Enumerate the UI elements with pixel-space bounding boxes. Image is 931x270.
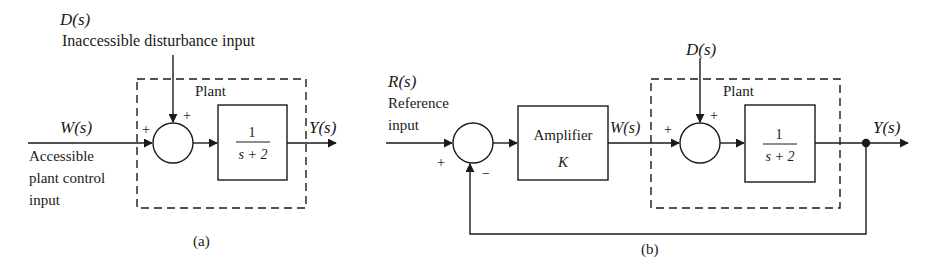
plant-label-b: Plant (723, 83, 755, 99)
tf-denominator-a: s + 2 (239, 147, 268, 162)
sum2-sign-top-b: + (710, 108, 718, 123)
sum1-sign-bottom-b: − (482, 166, 490, 181)
caption-a: (a) (193, 233, 210, 250)
tf-numerator-b: 1 (776, 127, 783, 142)
pickoff-point-b (863, 140, 870, 147)
sum-sign-left-a: + (142, 122, 150, 137)
input-desc-line-3: input (29, 192, 61, 208)
plant-label-a: Plant (195, 83, 227, 99)
summing-junction-a (153, 123, 193, 163)
input-label-a: W(s) (60, 118, 92, 137)
output-label-b: Y(s) (873, 118, 901, 137)
tf-denominator-b: s + 2 (766, 149, 795, 164)
caption-b: (b) (641, 241, 659, 258)
intermediate-label-b: W(s) (610, 119, 640, 137)
reference-desc-line-2: input (388, 117, 420, 133)
sum-sign-top-a: + (183, 108, 191, 123)
summing-junction-2-b (680, 123, 720, 163)
amplifier-gain-b: K (557, 154, 569, 170)
block-diagrams: D(s) Inaccessible disturbance input Plan… (0, 0, 931, 270)
input-desc-line-2: plant control (29, 170, 105, 186)
tf-numerator-a: 1 (249, 125, 256, 140)
input-desc-line-1: Accessible (29, 148, 94, 164)
output-label-a: Y(s) (309, 118, 337, 137)
sum1-sign-left-b: + (437, 155, 445, 170)
disturbance-label-a: D(s) (59, 10, 91, 29)
sum2-sign-left-b: + (664, 122, 672, 137)
summing-junction-1-b (453, 123, 493, 163)
reference-desc-line-1: Reference (388, 95, 449, 111)
diagram-b (386, 58, 908, 234)
reference-label-b: R(s) (387, 72, 417, 91)
disturbance-label-b: D(s) (685, 40, 717, 59)
disturbance-desc-a: Inaccessible disturbance input (62, 32, 255, 50)
amplifier-title-b: Amplifier (533, 127, 592, 143)
